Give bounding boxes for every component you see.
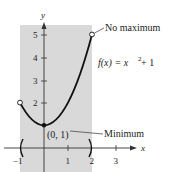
no-max-leader [95, 28, 105, 33]
open-point-left [18, 100, 23, 105]
minimum-point [42, 123, 47, 128]
tick-y-3: 3 [33, 76, 38, 86]
no-maximum-label: No maximum [105, 22, 160, 33]
open-point-right [90, 32, 95, 37]
function-label-tail: + 1 [141, 57, 154, 68]
tick-y-5: 5 [33, 30, 38, 40]
tick-y-4: 4 [33, 53, 38, 63]
y-axis-label: y [40, 10, 45, 20]
chart: x y 5 4 3 2 −1 1 2 3 No maximum f(x) = x… [0, 0, 172, 172]
min-point-label: (0, 1) [47, 129, 69, 141]
tick-x-2: 2 [90, 156, 95, 166]
tick-x-1: 1 [66, 156, 71, 166]
shaded-region [20, 25, 92, 172]
function-label: f(x) = x [98, 57, 129, 69]
x-axis-arrow-icon [130, 146, 137, 151]
minimum-label: Minimum [104, 128, 144, 139]
tick-x-3: 3 [114, 156, 119, 166]
tick-y-2: 2 [33, 98, 38, 108]
x-axis-label: x [140, 143, 145, 153]
tick-x-minus-1: −1 [13, 156, 23, 166]
